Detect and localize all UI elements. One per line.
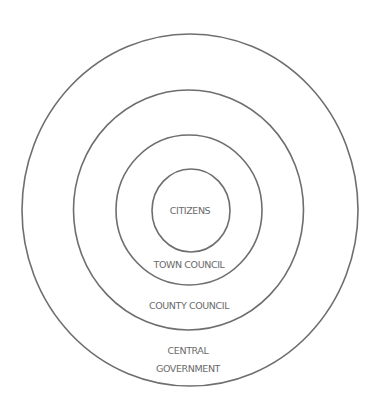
label-town-council: TOWN COUNCIL bbox=[153, 259, 226, 270]
label-citizens: CITIZENS bbox=[170, 205, 211, 216]
label-central: CENTRAL bbox=[168, 345, 210, 356]
label-government: GOVERNMENT bbox=[156, 363, 221, 374]
concentric-government-diagram: CITIZENS TOWN COUNCIL COUNTY COUNCIL CEN… bbox=[0, 0, 378, 414]
label-county-council: COUNTY COUNCIL bbox=[149, 300, 230, 311]
